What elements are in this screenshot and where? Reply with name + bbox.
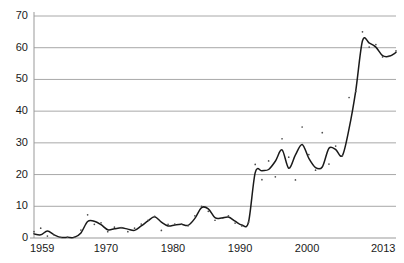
data-point xyxy=(120,227,122,229)
data-point xyxy=(40,227,42,229)
y-axis-tick-label: 60 xyxy=(2,42,28,53)
data-point xyxy=(214,219,216,221)
chart-plot-area xyxy=(0,0,404,263)
data-point xyxy=(127,231,129,233)
data-point xyxy=(201,205,203,207)
data-point xyxy=(67,237,69,239)
data-point xyxy=(382,56,384,58)
data-point xyxy=(47,235,49,237)
data-point xyxy=(87,214,89,216)
data-point xyxy=(261,179,263,181)
data-point xyxy=(254,164,256,166)
data-point xyxy=(268,160,270,162)
x-axis-tick-label: 2000 xyxy=(295,243,319,254)
x-axis-tick-label: 1970 xyxy=(94,243,118,254)
data-point xyxy=(342,155,344,157)
data-point xyxy=(221,217,223,219)
y-axis-tick-label: 40 xyxy=(2,105,28,116)
data-point xyxy=(73,236,75,238)
data-point xyxy=(154,216,156,218)
data-point xyxy=(301,126,303,128)
y-axis-tick-label: 20 xyxy=(2,169,28,180)
data-point xyxy=(181,223,183,225)
axis-line-group xyxy=(30,12,396,238)
data-point xyxy=(134,227,136,229)
data-point xyxy=(167,224,169,226)
x-axis-tick-label: 2013 xyxy=(371,243,395,254)
y-axis-tick-label: 70 xyxy=(2,10,28,21)
data-point xyxy=(187,225,189,227)
data-point xyxy=(80,229,82,231)
x-axis-tick-label: 1980 xyxy=(161,243,185,254)
data-point xyxy=(228,215,230,217)
x-axis-tick-label: 1959 xyxy=(30,243,54,254)
trend-line xyxy=(34,38,396,238)
trend-line-path xyxy=(34,38,396,238)
data-point xyxy=(194,215,196,217)
data-point xyxy=(161,230,163,232)
data-point xyxy=(60,237,62,239)
y-axis-tick-label: 0 xyxy=(2,232,28,243)
y-axis-tick-label: 30 xyxy=(2,137,28,148)
data-point xyxy=(234,222,236,224)
data-point xyxy=(140,223,142,225)
data-point xyxy=(348,97,350,99)
data-point xyxy=(174,223,176,225)
y-axis-tick-label: 10 xyxy=(2,200,28,211)
data-point xyxy=(328,163,330,165)
data-point xyxy=(100,222,102,224)
data-point xyxy=(288,156,290,158)
chart-container: 010203040506070 195919701980199020002013 xyxy=(0,0,404,263)
data-point xyxy=(241,225,243,227)
scatter-points xyxy=(33,31,397,238)
data-point xyxy=(274,176,276,178)
data-point xyxy=(395,50,397,52)
x-axis-tick-label: 1990 xyxy=(228,243,252,254)
data-point xyxy=(147,219,149,221)
data-point xyxy=(368,46,370,48)
data-point xyxy=(107,231,109,233)
data-point xyxy=(335,145,337,147)
data-point xyxy=(355,91,357,93)
data-point xyxy=(388,55,390,57)
data-point xyxy=(33,231,35,233)
data-point xyxy=(207,211,209,213)
data-point xyxy=(114,226,116,228)
data-point xyxy=(281,138,283,140)
data-point xyxy=(375,44,377,46)
gridline-group xyxy=(34,16,396,206)
data-point xyxy=(248,221,250,223)
y-axis-tick-label: 50 xyxy=(2,73,28,84)
data-point xyxy=(93,224,95,226)
data-point xyxy=(295,179,297,181)
data-point xyxy=(53,234,55,236)
data-point xyxy=(321,132,323,134)
data-point xyxy=(315,169,317,171)
data-point xyxy=(362,31,364,33)
data-point xyxy=(308,154,310,156)
